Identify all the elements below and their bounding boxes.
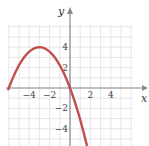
x-tick-label: 4 xyxy=(108,90,114,100)
y-tick-label: 4 xyxy=(62,42,68,52)
x-tick-label: −4 xyxy=(23,90,37,100)
x-axis-label: x xyxy=(141,92,148,105)
y-axis-label: y xyxy=(57,5,65,18)
parabola-chart: −4−22442−2−4 x y xyxy=(0,0,149,146)
x-axis-arrow-icon xyxy=(142,85,148,91)
axes xyxy=(6,7,148,146)
x-tick-label: 2 xyxy=(88,90,94,100)
x-tick-label: −2 xyxy=(43,90,56,100)
y-tick-label: −4 xyxy=(55,124,69,134)
y-axis-arrow-icon xyxy=(67,7,73,14)
y-tick-label: −2 xyxy=(55,103,68,113)
